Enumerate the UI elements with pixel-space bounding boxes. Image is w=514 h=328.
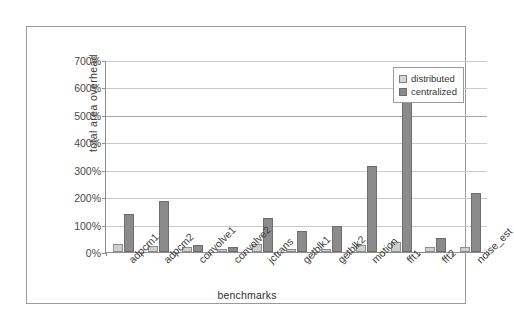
y-axis-tick-label: 500% bbox=[74, 110, 101, 122]
legend-label: distributed bbox=[411, 73, 455, 84]
y-axis-tick-label: 700% bbox=[74, 55, 101, 67]
x-axis-tick-label: getblk1 bbox=[300, 257, 308, 265]
bar-group bbox=[280, 61, 315, 252]
y-axis-tick-label: 300% bbox=[74, 165, 101, 177]
bar-centralized-getblk2 bbox=[332, 226, 342, 252]
y-axis-tick-labels: 0%100%200%300%400%500%600%700% bbox=[57, 61, 101, 253]
y-axis-tick-label: 400% bbox=[74, 137, 101, 149]
x-axis-tick-label: noise_est bbox=[474, 257, 482, 265]
bar-centralized-adpcm2 bbox=[159, 201, 169, 252]
bar-centralized-noise_est bbox=[471, 193, 481, 252]
y-axis-tick-label: 100% bbox=[74, 220, 101, 232]
bar-centralized-getblk1 bbox=[297, 231, 307, 252]
bar-group bbox=[106, 61, 141, 252]
legend-item-distributed: distributed bbox=[399, 72, 457, 85]
bar-group bbox=[349, 61, 384, 252]
bar-group bbox=[175, 61, 210, 252]
legend-swatch-icon bbox=[399, 88, 407, 96]
x-axis-tick-label: fft1 bbox=[404, 257, 412, 265]
legend-item-centralized: centralized bbox=[399, 85, 457, 98]
bar-group bbox=[314, 61, 349, 252]
x-axis-tick-label: getblk2 bbox=[335, 257, 343, 265]
bar-group bbox=[245, 61, 280, 252]
x-axis-tick-label: fft2 bbox=[439, 257, 447, 265]
bar-group bbox=[141, 61, 176, 252]
x-axis-tick-labels: adpcm1adpcm2convolve1convolve2jctransget… bbox=[105, 257, 487, 313]
y-axis-tick-label: 600% bbox=[74, 82, 101, 94]
bar-centralized-motion bbox=[367, 166, 377, 252]
chart-legend: distributedcentralized bbox=[393, 67, 464, 103]
legend-label: centralized bbox=[411, 86, 457, 97]
x-axis-tick-label: motion bbox=[369, 257, 377, 265]
y-axis-tick-label: 200% bbox=[74, 192, 101, 204]
x-axis-title: benchmarks bbox=[27, 289, 467, 301]
bar-distributed-adpcm1 bbox=[113, 244, 123, 252]
bar-centralized-fft1 bbox=[402, 78, 412, 252]
legend-swatch-icon bbox=[399, 75, 407, 83]
bar-distributed-fft2 bbox=[425, 247, 435, 252]
x-axis-tick-label: adpcm1 bbox=[126, 257, 134, 265]
bar-group bbox=[210, 61, 245, 252]
bar-centralized-adpcm1 bbox=[124, 214, 134, 252]
x-axis-tick-label: adpcm2 bbox=[161, 257, 169, 265]
chart-frame: total area overhead 0%100%200%300%400%50… bbox=[26, 26, 466, 304]
x-axis-tick-label: convolve2 bbox=[231, 257, 239, 265]
x-axis-tick-mark bbox=[106, 252, 107, 256]
y-axis-tick-label: 0% bbox=[86, 247, 101, 259]
x-axis-tick-label: jctrans bbox=[265, 257, 273, 265]
bar-distributed-noise_est bbox=[460, 247, 470, 252]
x-axis-tick-label: convolve1 bbox=[196, 257, 204, 265]
